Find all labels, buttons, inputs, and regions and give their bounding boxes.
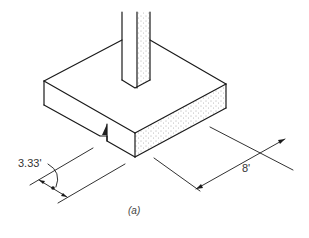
- footing-slab: [44, 40, 226, 157]
- slab-front-left-top-edge: [44, 81, 135, 133]
- dimension-dot: [51, 186, 55, 190]
- dimension-line-width: [196, 139, 285, 189]
- dimension-distance: 3.33': [18, 148, 125, 203]
- footing-diagram: 3.33' 8' (a): [0, 0, 309, 238]
- column: [122, 12, 150, 88]
- critical-section-notch-icon: [102, 124, 107, 135]
- column-shaded-face: [137, 12, 150, 88]
- slab-bottom-left-edge: [44, 105, 135, 157]
- slab-back-right-edge: [150, 40, 226, 84]
- leader-arc: [48, 164, 58, 187]
- dimension-width: 8': [154, 127, 293, 191]
- arrowhead-icon: [196, 184, 203, 189]
- arrowhead-icon: [278, 139, 285, 144]
- slab-back-left-edge: [44, 40, 122, 81]
- extension-line-3: [210, 127, 293, 170]
- width-label: 8': [242, 162, 250, 174]
- figure-caption: (a): [128, 205, 140, 216]
- extension-line-2: [58, 164, 125, 203]
- slab-shaded-face: [135, 84, 226, 157]
- extension-line-4: [154, 158, 200, 191]
- distance-label: 3.33': [18, 157, 42, 169]
